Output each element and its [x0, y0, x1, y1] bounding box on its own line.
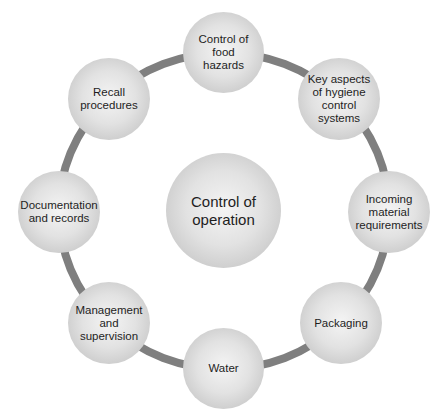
node-label-line: material: [355, 206, 422, 219]
node-label-line: Recall: [80, 86, 138, 99]
node-label-line: requirements: [355, 219, 422, 232]
node-packaging: Packaging: [300, 282, 382, 364]
node-label-line: Management: [75, 304, 142, 317]
node-label-line: supervision: [75, 330, 142, 343]
node-label-line: Documentation: [20, 199, 97, 212]
center-label-line: Control of: [191, 193, 256, 211]
node-label-line: systems: [308, 112, 371, 125]
node-recall-procedures: Recall procedures: [68, 58, 150, 140]
node-key-aspects-hygiene: Key aspects of hygiene control systems: [298, 58, 380, 140]
center-node-control-of-operation: Control of operation: [166, 153, 281, 268]
node-label-line: procedures: [80, 99, 138, 112]
node-label-line: Incoming: [355, 193, 422, 206]
node-control-of-food-hazards: Control of food hazards: [183, 12, 264, 93]
center-label-line: operation: [191, 211, 256, 229]
node-label-line: of hygiene: [308, 86, 371, 99]
node-label-line: and: [75, 317, 142, 330]
node-management-supervision: Management and supervision: [68, 282, 150, 364]
node-label-line: Packaging: [314, 317, 368, 330]
node-documentation-records: Documentation and records: [18, 171, 100, 253]
node-label-line: Control of food: [187, 33, 260, 59]
node-water: Water: [183, 328, 264, 409]
node-label-line: and records: [20, 212, 97, 225]
node-label-line: Key aspects: [308, 73, 371, 86]
node-label-line: control: [308, 99, 371, 112]
node-label-line: hazards: [187, 59, 260, 72]
node-incoming-material: Incoming material requirements: [348, 171, 430, 253]
node-label-line: Water: [208, 362, 238, 375]
